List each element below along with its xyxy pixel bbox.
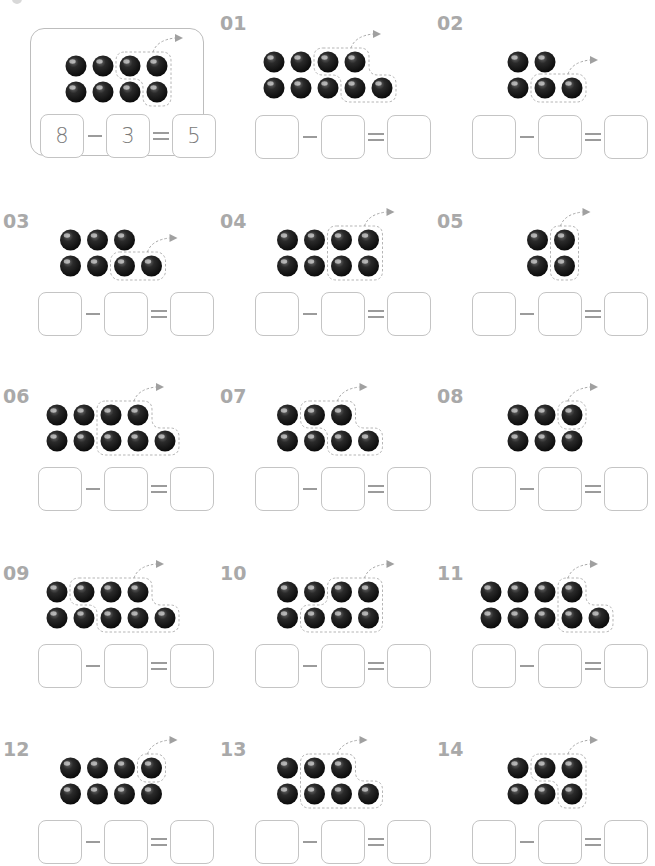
ball [535, 78, 556, 99]
ball [74, 582, 95, 603]
ball-highlight [565, 611, 571, 615]
ball-highlight [91, 259, 97, 263]
minuend-box[interactable]: 8 [40, 114, 84, 158]
ball-highlight [64, 259, 70, 263]
ball [264, 52, 285, 73]
subtrahend-box[interactable] [321, 644, 365, 688]
difference-box[interactable] [604, 820, 648, 864]
ball-highlight [511, 55, 517, 59]
example-equation: 8 3 5 [40, 114, 216, 158]
difference-box[interactable] [387, 292, 431, 336]
ball-highlight [538, 787, 544, 791]
ball [74, 431, 95, 452]
subtrahend-box[interactable] [321, 467, 365, 511]
ball-highlight [538, 55, 544, 59]
ball-highlight [565, 761, 571, 765]
ball [147, 56, 168, 77]
ball-highlight [281, 408, 287, 412]
ball [128, 405, 149, 426]
arrow-head-icon [387, 560, 395, 568]
ball [101, 431, 122, 452]
arrow-head-icon [170, 736, 178, 744]
difference-box[interactable] [387, 644, 431, 688]
ball-highlight [335, 408, 341, 412]
difference-box[interactable] [604, 292, 648, 336]
ball-highlight [150, 85, 156, 89]
ball [277, 405, 298, 426]
equals-sign [365, 310, 387, 318]
minuend-box[interactable] [472, 467, 516, 511]
difference-box[interactable] [604, 115, 648, 159]
difference-box[interactable]: 5 [172, 114, 216, 158]
subtrahend-box[interactable] [104, 467, 148, 511]
ball [508, 78, 529, 99]
difference-box[interactable] [170, 820, 214, 864]
difference-box[interactable] [604, 644, 648, 688]
ball-highlight [511, 434, 517, 438]
equation-row [472, 644, 648, 688]
minuend-box[interactable] [255, 644, 299, 688]
subtrahend-box[interactable] [538, 467, 582, 511]
minuend-box[interactable] [472, 292, 516, 336]
minuend-box[interactable] [38, 820, 82, 864]
subtrahend-box[interactable] [538, 644, 582, 688]
difference-box[interactable] [387, 115, 431, 159]
minuend-box[interactable] [38, 644, 82, 688]
arrow-head-icon [583, 208, 591, 216]
ball [101, 608, 122, 629]
minuend-box[interactable] [255, 467, 299, 511]
subtrahend-box[interactable] [538, 292, 582, 336]
ball-highlight [281, 434, 287, 438]
minuend-box[interactable] [472, 644, 516, 688]
ball [155, 431, 176, 452]
ball [277, 230, 298, 251]
subtrahend-box[interactable] [104, 292, 148, 336]
difference-box[interactable] [604, 467, 648, 511]
ball [331, 582, 352, 603]
difference-box[interactable] [387, 467, 431, 511]
problem-03: 03 [3, 210, 218, 380]
ball-highlight [362, 259, 368, 263]
ball-highlight [558, 233, 564, 237]
difference-box[interactable] [170, 292, 214, 336]
subtrahend-box[interactable] [321, 292, 365, 336]
equation-row [472, 467, 648, 511]
subtrahend-box[interactable] [538, 115, 582, 159]
minuend-box[interactable] [255, 292, 299, 336]
minuend-box[interactable] [472, 115, 516, 159]
minuend-box[interactable] [255, 115, 299, 159]
ball [535, 405, 556, 426]
ball-highlight [91, 761, 97, 765]
subtrahend-box[interactable] [104, 644, 148, 688]
minuend-box[interactable] [38, 292, 82, 336]
subtrahend-box[interactable] [321, 820, 365, 864]
ball [87, 256, 108, 277]
arrow-trail [338, 387, 360, 401]
minuend-box[interactable] [255, 820, 299, 864]
arrow-head-icon [387, 208, 395, 216]
subtrahend-box[interactable] [104, 820, 148, 864]
difference-box[interactable] [387, 820, 431, 864]
subtrahend-box[interactable] [321, 115, 365, 159]
equals-sign [582, 662, 604, 670]
ball [291, 78, 312, 99]
minus-sign [299, 313, 321, 315]
ball-highlight [511, 611, 517, 615]
difference-box[interactable] [170, 467, 214, 511]
subtrahend-box[interactable] [538, 820, 582, 864]
ball-highlight [50, 434, 56, 438]
ball-highlight [531, 259, 537, 263]
ball [147, 82, 168, 103]
ball-highlight [145, 761, 151, 765]
difference-box[interactable] [170, 644, 214, 688]
subtrahend-box[interactable]: 3 [106, 114, 150, 158]
ball-highlight [91, 233, 97, 237]
ball [358, 431, 379, 452]
ball [331, 405, 352, 426]
ball [141, 256, 162, 277]
ball [277, 431, 298, 452]
minuend-box[interactable] [38, 467, 82, 511]
ball-highlight [558, 259, 564, 263]
ball-highlight [362, 611, 368, 615]
minuend-box[interactable] [472, 820, 516, 864]
